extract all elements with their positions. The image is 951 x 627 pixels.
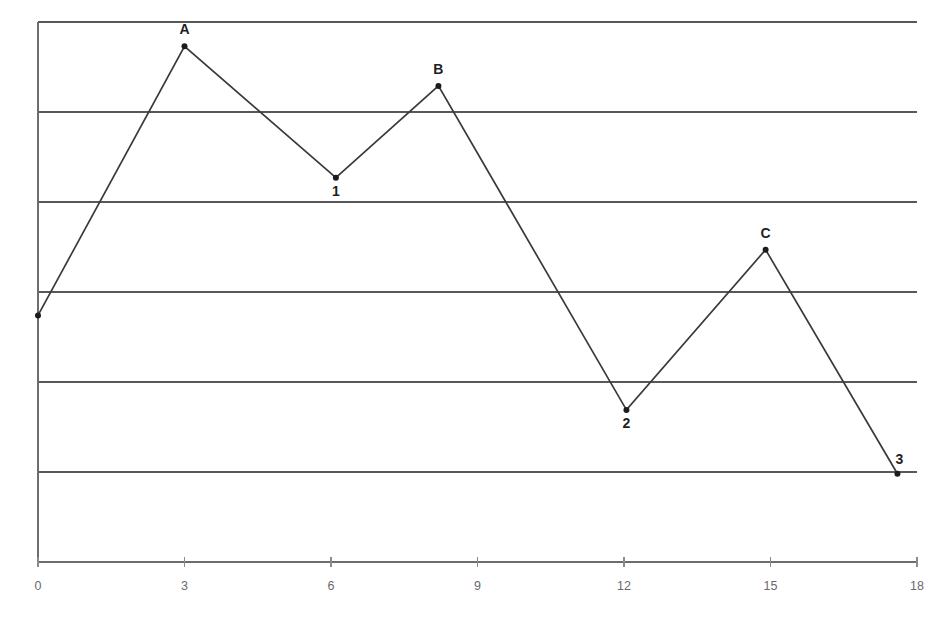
point-label-2: 2 bbox=[623, 415, 631, 431]
x-tick-label-12: 12 bbox=[617, 579, 631, 593]
chart-container: A1B2C3 0369121518 bbox=[0, 0, 951, 627]
data-point-marker bbox=[35, 312, 41, 318]
x-tick-label-9: 9 bbox=[474, 579, 481, 593]
data-point-marker bbox=[763, 247, 769, 253]
data-point-marker bbox=[623, 407, 629, 413]
point-label-B: B bbox=[433, 61, 443, 77]
point-label-3: 3 bbox=[896, 451, 904, 467]
x-tick-label-18: 18 bbox=[910, 579, 924, 593]
chart-background bbox=[0, 0, 951, 627]
point-label-C: C bbox=[761, 225, 771, 241]
point-label-1: 1 bbox=[332, 183, 340, 199]
point-label-A: A bbox=[179, 21, 189, 37]
data-point-marker bbox=[333, 175, 339, 181]
line-chart: A1B2C3 0369121518 bbox=[0, 0, 951, 627]
x-tick-label-15: 15 bbox=[764, 579, 778, 593]
data-point-marker bbox=[435, 83, 441, 89]
x-tick-label-6: 6 bbox=[328, 579, 335, 593]
x-tick-label-3: 3 bbox=[181, 579, 188, 593]
data-point-marker bbox=[894, 471, 900, 477]
data-point-marker bbox=[181, 43, 187, 49]
x-tick-label-0: 0 bbox=[35, 579, 42, 593]
